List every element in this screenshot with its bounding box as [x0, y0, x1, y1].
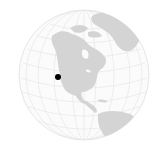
location-marker-dot	[55, 74, 61, 80]
locator-globe-map	[0, 0, 161, 149]
